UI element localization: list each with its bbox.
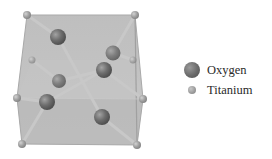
oxygen-ball-icon	[182, 60, 202, 80]
legend-item-titanium: Titanium	[182, 80, 252, 100]
legend-item-oxygen: Oxygen	[182, 60, 247, 80]
legend-label: Titanium	[207, 83, 252, 98]
legend-label: Oxygen	[207, 63, 247, 78]
titanium-ball-icon	[182, 80, 202, 100]
